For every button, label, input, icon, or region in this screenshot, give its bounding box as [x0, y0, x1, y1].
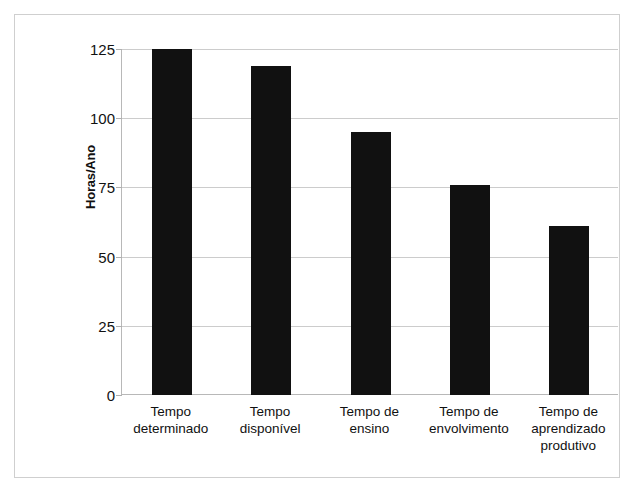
- x-axis-category-label-line: aprendizado: [519, 420, 618, 437]
- chart-frame: Horas/Ano 0255075100125 Tempodeterminado…: [14, 14, 620, 478]
- y-axis-tick: [116, 187, 122, 188]
- gridline: [122, 49, 618, 50]
- y-axis-tick-labels: 0255075100125: [55, 49, 115, 395]
- bar: [450, 185, 490, 395]
- x-axis-category-label-line: Tempo de: [519, 403, 618, 420]
- x-axis-category-label-line: envolvimento: [419, 420, 518, 437]
- bar: [549, 226, 589, 395]
- bar: [251, 66, 291, 395]
- x-axis-category-label-line: Tempo: [121, 403, 220, 420]
- x-axis-category-label-line: Tempo de: [419, 403, 518, 420]
- y-axis-tick-label: 100: [63, 111, 115, 126]
- y-axis-tick: [116, 118, 122, 119]
- x-axis-category-label-line: Tempo de: [320, 403, 419, 420]
- x-axis-category-label: Tempo deaprendizadoprodutivo: [519, 403, 618, 454]
- y-axis-tick: [116, 257, 122, 258]
- x-axis-category-label: Tempo deensino: [320, 403, 419, 437]
- y-axis-tick-label: 0: [63, 388, 115, 403]
- gridline: [122, 118, 618, 119]
- x-axis-category-label: Tempo deenvolvimento: [419, 403, 518, 437]
- x-axis-category-label-line: ensino: [320, 420, 419, 437]
- bar: [351, 132, 391, 395]
- x-axis-category-label-line: produtivo: [519, 437, 618, 454]
- bar: [152, 49, 192, 395]
- y-axis-tick-label: 75: [63, 180, 115, 195]
- y-axis-tick: [116, 395, 122, 396]
- plot-area: [121, 49, 618, 395]
- y-axis-tick-label: 25: [63, 318, 115, 333]
- y-axis-tick: [116, 49, 122, 50]
- x-axis-category-label-line: determinado: [121, 420, 220, 437]
- x-axis-category-label: Tempodisponível: [220, 403, 319, 437]
- x-axis-category-label-line: disponível: [220, 420, 319, 437]
- y-axis-tick: [116, 326, 122, 327]
- y-axis-tick-label: 125: [63, 42, 115, 57]
- figure: Horas/Ano 0255075100125 Tempodeterminado…: [0, 0, 633, 494]
- x-axis-category-label: Tempodeterminado: [121, 403, 220, 437]
- x-axis-category-label-line: Tempo: [220, 403, 319, 420]
- y-axis-tick-label: 50: [63, 249, 115, 264]
- x-axis-category-labels: TempodeterminadoTempodisponívelTempo dee…: [121, 403, 618, 483]
